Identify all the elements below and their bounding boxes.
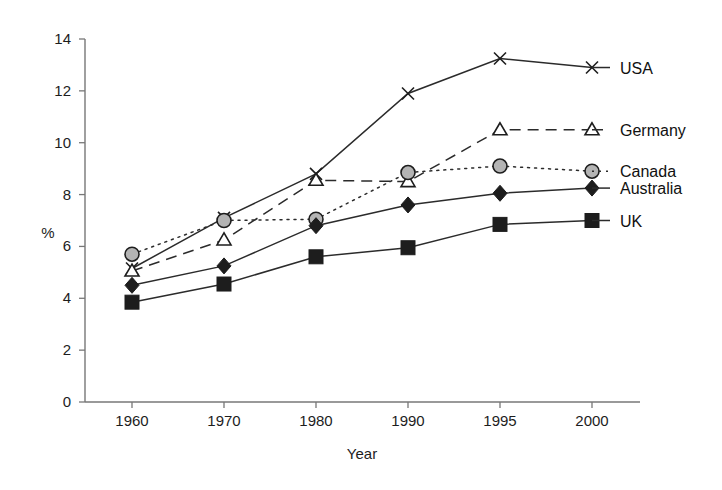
x-tick-label: 1970 — [207, 412, 240, 429]
data-point-germany-1970 — [217, 233, 231, 245]
series-labels-layer: USAGermanyCanadaAustraliaUK — [620, 60, 686, 230]
x-tick-label: 1980 — [299, 412, 332, 429]
y-tick-label: 0 — [63, 393, 71, 410]
series-usa — [126, 52, 610, 274]
data-point-uk-1990 — [401, 241, 415, 255]
x-axis-ticks: 196019701980199019952000 — [115, 402, 608, 429]
data-point-australia-1990 — [401, 197, 415, 213]
series-line-germany — [132, 130, 592, 271]
series-line-canada — [132, 166, 592, 254]
x-tick-label: 1995 — [483, 412, 516, 429]
data-point-canada-1960 — [125, 247, 139, 261]
x-tick-label: 1990 — [391, 412, 424, 429]
series-label-usa: USA — [620, 60, 653, 77]
x-tick-label: 1960 — [115, 412, 148, 429]
data-point-uk-1980 — [309, 250, 323, 264]
data-point-australia-1995 — [493, 185, 507, 201]
y-tick-label: 10 — [54, 134, 71, 151]
chart-canvas: 02468101214 196019701980199019952000 % Y… — [0, 0, 722, 490]
y-tick-label: 2 — [63, 341, 71, 358]
series-line-uk — [132, 221, 592, 303]
data-point-uk-1960 — [125, 295, 139, 309]
data-point-canada-1970 — [217, 214, 231, 228]
data-point-uk-1995 — [493, 217, 507, 231]
data-point-australia-1970 — [217, 258, 231, 274]
series-label-germany: Germany — [620, 122, 686, 139]
series-label-australia: Australia — [620, 180, 682, 197]
data-point-uk-1970 — [217, 277, 231, 291]
line-chart: 02468101214 196019701980199019952000 % Y… — [0, 0, 722, 490]
series-uk — [125, 214, 610, 310]
series-australia — [125, 180, 610, 293]
data-point-germany-2000 — [585, 123, 599, 135]
data-point-germany-1995 — [493, 123, 507, 135]
series-label-canada: Canada — [620, 163, 676, 180]
y-tick-label: 8 — [63, 186, 71, 203]
data-point-canada-1990 — [401, 166, 415, 180]
y-axis-title: % — [41, 224, 54, 241]
series-canada — [125, 159, 610, 261]
y-tick-label: 4 — [63, 289, 71, 306]
data-point-australia-1960 — [125, 277, 139, 293]
series-layer — [125, 52, 610, 309]
y-tick-label: 14 — [54, 30, 71, 47]
y-tick-label: 12 — [54, 82, 71, 99]
x-axis-title: Year — [347, 445, 377, 462]
series-label-uk: UK — [620, 213, 643, 230]
data-point-usa-1990 — [402, 87, 414, 99]
series-germany — [125, 123, 610, 276]
y-tick-label: 6 — [63, 237, 71, 254]
x-tick-label: 2000 — [575, 412, 608, 429]
axes-group — [85, 39, 640, 402]
data-point-canada-1995 — [493, 159, 507, 173]
y-axis-ticks: 02468101214 — [54, 30, 85, 410]
series-line-australia — [132, 188, 592, 285]
series-line-usa — [132, 58, 592, 268]
